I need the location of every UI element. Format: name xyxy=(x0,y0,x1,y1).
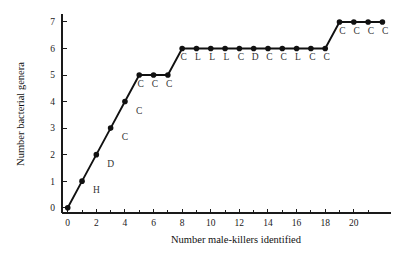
chart-figure: 02468101214161820 01234567 HDCCCCCCLLLCD… xyxy=(0,0,407,262)
svg-text:C: C xyxy=(309,52,315,62)
svg-text:0: 0 xyxy=(50,203,55,213)
svg-text:2: 2 xyxy=(50,150,55,160)
svg-text:4: 4 xyxy=(123,218,128,228)
svg-text:D: D xyxy=(107,159,114,169)
svg-text:7: 7 xyxy=(50,17,55,27)
svg-text:C: C xyxy=(353,26,359,36)
svg-text:20: 20 xyxy=(349,218,359,228)
svg-text:6: 6 xyxy=(151,218,156,228)
svg-text:C: C xyxy=(238,52,244,62)
y-axis-tick-labels: 01234567 xyxy=(50,17,55,213)
axes xyxy=(62,14,391,213)
svg-text:L: L xyxy=(209,52,215,62)
svg-text:L: L xyxy=(224,52,230,62)
line-chart-canvas: 02468101214161820 01234567 HDCCCCCCLLLCD… xyxy=(0,0,407,262)
svg-text:C: C xyxy=(122,132,128,142)
svg-text:18: 18 xyxy=(320,218,330,228)
svg-text:C: C xyxy=(166,79,172,89)
svg-text:C: C xyxy=(281,52,287,62)
svg-text:16: 16 xyxy=(292,218,302,228)
svg-text:14: 14 xyxy=(263,218,273,228)
svg-text:3: 3 xyxy=(50,123,55,133)
x-axis-title: Number male-killers identified xyxy=(171,234,302,245)
svg-text:C: C xyxy=(137,79,143,89)
svg-text:10: 10 xyxy=(206,218,216,228)
svg-text:C: C xyxy=(323,52,329,62)
svg-text:C: C xyxy=(152,79,158,89)
svg-text:H: H xyxy=(93,185,100,195)
data-point-markers xyxy=(65,19,385,210)
svg-text:12: 12 xyxy=(235,218,245,228)
svg-text:8: 8 xyxy=(180,218,185,228)
svg-text:C: C xyxy=(368,26,374,36)
svg-text:C: C xyxy=(136,106,142,116)
svg-text:6: 6 xyxy=(50,44,55,54)
axis-ticks xyxy=(62,22,368,213)
svg-text:4: 4 xyxy=(50,97,55,107)
point-annotations: HDCCCCCCLLLCDCCLCCCCCC xyxy=(93,26,389,195)
svg-text:D: D xyxy=(252,52,259,62)
svg-text:L: L xyxy=(295,52,301,62)
svg-text:C: C xyxy=(266,52,272,62)
svg-text:C: C xyxy=(339,26,345,36)
svg-text:0: 0 xyxy=(65,218,70,228)
svg-text:C: C xyxy=(382,26,388,36)
y-axis-title: Number bacterial genera xyxy=(15,62,26,166)
svg-text:5: 5 xyxy=(50,70,55,80)
svg-text:1: 1 xyxy=(50,177,55,187)
svg-text:2: 2 xyxy=(94,218,99,228)
x-axis-tick-labels: 02468101214161820 xyxy=(65,218,358,228)
svg-text:C: C xyxy=(180,52,186,62)
svg-text:L: L xyxy=(195,52,201,62)
